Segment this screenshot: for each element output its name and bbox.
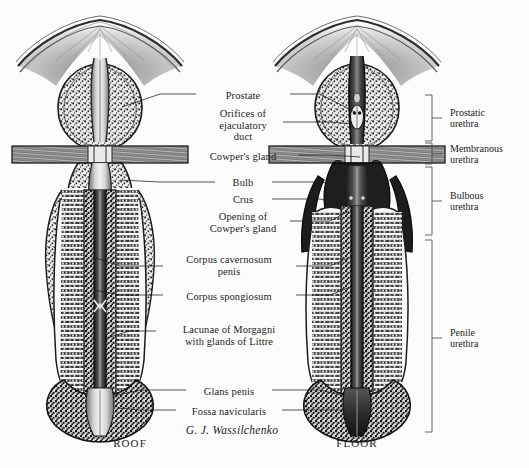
callout-label-glans-penis: Glans penis — [204, 386, 254, 398]
callout-label-lacunae-morgagni: Lacunae of Morgagni with glands of Littr… — [183, 324, 276, 347]
leader-orifices — [283, 122, 352, 124]
bracket-penile-urethra — [425, 240, 442, 432]
leader-glans-roof — [114, 390, 186, 396]
leader-cc-roof — [96, 258, 163, 266]
callout-label-cowpers-gland: Cowper's gland — [210, 151, 277, 163]
callout-label-prostate: Prostate — [226, 90, 261, 102]
bracket-label-penile-urethra: Penile urethra — [450, 327, 478, 350]
figure-canvas: ProstateOrifices of ejaculatory ductCowp… — [0, 0, 529, 468]
bracket-membranous-urethra — [425, 143, 442, 164]
leader-bulb-roof — [120, 180, 215, 182]
callout-label-opening-cowpers: Opening of Cowper's gland — [210, 211, 277, 234]
leader-prostate-floor — [290, 94, 355, 112]
leader-prostate-roof — [122, 94, 196, 107]
callout-label-corpus-cavernosum: Corpus cavernosum penis — [186, 254, 271, 277]
bracket-label-bulbous-urethra: Bulbous urethra — [450, 190, 483, 213]
callout-label-corpus-spongiosum: Corpus spongiosum — [186, 291, 271, 303]
leader-cc-floor — [296, 258, 348, 266]
callout-label-fossa-navicularis: Fossa navicularis — [192, 406, 266, 418]
leader-cowpers-gland — [298, 155, 360, 157]
bracket-label-prostatic-urethra: Prostatic urethra — [450, 107, 485, 130]
callout-label-bulb: Bulb — [233, 177, 254, 189]
leader-bulb-floor — [272, 182, 347, 186]
bracket-prostatic-urethra — [425, 95, 442, 141]
leader-crus — [272, 199, 338, 203]
leader-cs-roof — [94, 290, 163, 295]
artist-signature: G. J. Wassilchenko — [186, 424, 279, 436]
panel-caption-roof: ROOF — [113, 437, 147, 449]
bracket-label-membranous-urethra: Membranous urethra — [450, 143, 503, 166]
bracket-bulbous-urethra — [425, 167, 442, 235]
leader-cs-floor — [296, 288, 348, 295]
callout-label-crus: Crus — [233, 194, 253, 206]
leader-lacunae — [106, 331, 156, 338]
leader-glans-floor — [272, 390, 344, 396]
leader-opening-cowpers — [290, 211, 349, 221]
callout-label-orifices: Orifices of ejaculatory duct — [219, 108, 267, 143]
panel-caption-floor: FLOOR — [336, 437, 378, 449]
leader-fossa-roof — [118, 408, 176, 410]
